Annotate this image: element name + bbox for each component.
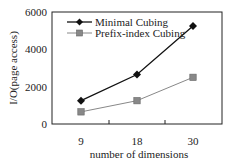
x-tick-label: 9 xyxy=(78,135,84,147)
diamond-marker-icon xyxy=(77,97,85,105)
y-tick-label: 6000 xyxy=(25,6,48,18)
legend: Minimal Cubing Prefix-index Cubing xyxy=(67,16,186,39)
square-marker-icon xyxy=(78,109,84,115)
y-tick-label: 0 xyxy=(42,118,48,130)
square-marker-icon xyxy=(190,74,196,80)
square-marker-icon xyxy=(134,97,140,103)
legend-label-prefix: Prefix-index Cubing xyxy=(95,27,186,39)
x-tick-label: 30 xyxy=(188,135,200,147)
series-line-prefix-index-cubing xyxy=(81,77,193,112)
x-axis-title: number of dimensions xyxy=(90,148,188,160)
line-chart: 0 2000 4000 6000 9 18 30 number of dimen… xyxy=(0,0,233,163)
x-tick-label: 18 xyxy=(132,135,144,147)
y-tick-label: 2000 xyxy=(25,81,48,93)
square-marker-icon xyxy=(77,30,83,36)
y-axis-title: I/O(page access) xyxy=(7,31,20,105)
y-tick-label: 4000 xyxy=(25,43,48,55)
diamond-marker-icon xyxy=(76,19,83,26)
